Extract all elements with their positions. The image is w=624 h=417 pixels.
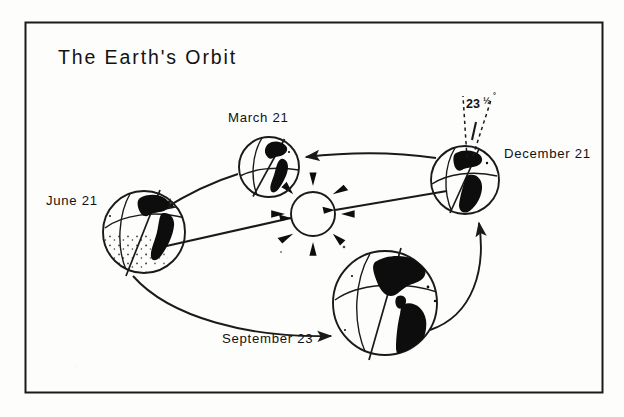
sun-icon [271,173,354,256]
axis-tilt-degree-symbol: ° [493,91,496,100]
globe-june-21: June 21 [46,190,185,276]
solstice-axis-line [162,191,447,247]
globe-label-june-21: June 21 [46,193,98,208]
figure-page: The Earth's Orbit [0,0,624,417]
globe-march-21: March 21 [228,110,299,197]
orbit-arrow-december-to-march [306,153,436,158]
orbit-arrow-june-to-september [133,276,331,336]
orbit-arrow-september-to-december [430,223,481,330]
axis-tilt-fraction: ½ [483,96,491,106]
globe-label-march-21: March 21 [228,110,289,125]
axis-tilt-value: 23 [466,97,480,111]
figure-title: The Earth's Orbit [58,46,237,68]
globe-label-december-21: December 21 [504,146,591,161]
globe-december-21: December 21 [431,96,591,214]
earth-orbit-diagram: The Earth's Orbit [0,0,624,417]
globe-label-september-23: September 23 [222,331,313,346]
globe-september-23: September 23 [222,248,437,360]
axis-tilt-label: 23 ½ ° [466,91,496,111]
